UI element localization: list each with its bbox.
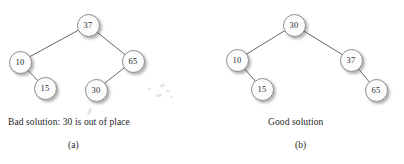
tree-edge bbox=[27, 70, 37, 81]
tree-node-label: 65 bbox=[372, 85, 381, 94]
tree-edge bbox=[358, 68, 370, 82]
binary-search-tree-figure: 37 10 65 15 30 Bad solution: 30 is out o… bbox=[0, 0, 404, 164]
tree-node-10: 10 bbox=[9, 51, 32, 74]
tree-node-label: 10 bbox=[16, 57, 25, 66]
scan-speck bbox=[148, 88, 151, 90]
tree-node-65: 65 bbox=[122, 50, 145, 73]
tree-edge bbox=[104, 67, 124, 83]
tree-node-label: 30 bbox=[92, 85, 101, 94]
tree-node-10: 10 bbox=[226, 49, 249, 72]
tree-node-label: 10 bbox=[233, 55, 242, 64]
tree-node-15: 15 bbox=[251, 78, 274, 101]
tree-node-label: 37 bbox=[84, 20, 93, 29]
panel-a-caption: Bad solution: 30 is out of place bbox=[8, 117, 130, 127]
panel-bad-solution: 37 10 65 15 30 Bad solution: 30 is out o… bbox=[0, 0, 202, 164]
tree-edge bbox=[244, 68, 255, 81]
tree-node-37: 37 bbox=[340, 49, 363, 72]
tree-node-label: 15 bbox=[41, 83, 50, 92]
panel-a-sublabel: (a) bbox=[68, 140, 79, 150]
panel-b-sublabel: (b) bbox=[295, 140, 306, 150]
tree-node-30: 30 bbox=[283, 14, 306, 37]
tree-edge bbox=[96, 32, 125, 55]
tree-node-65: 65 bbox=[365, 79, 388, 102]
tree-node-label: 37 bbox=[347, 55, 356, 64]
tree-node-30: 30 bbox=[85, 79, 108, 102]
tree-edge bbox=[303, 30, 342, 54]
tree-node-label: 15 bbox=[258, 84, 267, 93]
tree-node-label: 65 bbox=[129, 56, 138, 65]
tree-node-37: 37 bbox=[77, 14, 100, 37]
tree-edge bbox=[29, 30, 79, 57]
tree-node-label: 30 bbox=[290, 20, 299, 29]
tree-edge bbox=[246, 30, 285, 54]
panel-b-caption: Good solution bbox=[268, 117, 323, 127]
panel-good-solution: 30 10 37 15 65 Good solution (b) bbox=[202, 0, 404, 164]
tree-node-15: 15 bbox=[34, 77, 57, 100]
